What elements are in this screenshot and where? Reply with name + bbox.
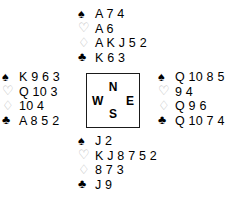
west-spades-row: ♠ K 9 6 3 (2, 70, 60, 85)
north-spades-cards: A 7 4 (91, 7, 125, 21)
south-spades-cards: J 2 (91, 134, 112, 148)
west-clubs-cards: A 8 5 2 (15, 114, 59, 128)
west-hearts-row: ♡ Q 10 3 (2, 85, 60, 100)
spade-icon: ♠ (2, 71, 15, 84)
north-diamonds-cards: A K J 5 2 (91, 36, 147, 50)
bridge-hand-diagram: ♠ A 7 4 ♡ A 6 ♢ A K J 5 2 ♣ K 6 3 ♠ K 9 … (0, 0, 234, 207)
east-diamonds-row: ♢ Q 9 6 (158, 99, 225, 114)
diamond-icon: ♢ (78, 37, 91, 50)
south-clubs-cards: J 9 (91, 178, 112, 192)
south-hearts-cards: K J 8 7 5 2 (91, 149, 157, 163)
east-hearts-cards: 9 4 (171, 85, 193, 99)
east-clubs-row: ♣ Q 10 7 4 (158, 114, 225, 129)
north-clubs-cards: K 6 3 (91, 51, 125, 65)
east-clubs-cards: Q 10 7 4 (171, 114, 225, 128)
south-diamonds-row: ♢ 8 7 3 (78, 163, 157, 178)
east-diamonds-cards: Q 9 6 (171, 99, 207, 113)
compass-east-label: E (126, 95, 134, 107)
compass-west-label: W (92, 95, 103, 107)
north-diamonds-row: ♢ A K J 5 2 (78, 36, 147, 51)
west-hearts-cards: Q 10 3 (15, 85, 58, 99)
heart-icon: ♡ (158, 85, 171, 98)
south-spades-row: ♠ J 2 (78, 134, 157, 149)
hand-east: ♠ Q 10 8 5 ♡ 9 4 ♢ Q 9 6 ♣ Q 10 7 4 (158, 70, 225, 128)
compass-box: N W E S (86, 73, 140, 128)
west-clubs-row: ♣ A 8 5 2 (2, 114, 60, 129)
diamond-icon: ♢ (78, 164, 91, 177)
south-clubs-row: ♣ J 9 (78, 178, 157, 193)
diamond-icon: ♢ (158, 100, 171, 113)
hand-west: ♠ K 9 6 3 ♡ Q 10 3 ♢ 10 4 ♣ A 8 5 2 (2, 70, 60, 128)
hand-south: ♠ J 2 ♡ K J 8 7 5 2 ♢ 8 7 3 ♣ J 9 (78, 134, 157, 192)
spade-icon: ♠ (78, 135, 91, 148)
heart-icon: ♡ (78, 149, 91, 162)
east-hearts-row: ♡ 9 4 (158, 85, 225, 100)
north-spades-row: ♠ A 7 4 (78, 7, 147, 22)
compass-north-label: N (87, 81, 139, 93)
east-spades-row: ♠ Q 10 8 5 (158, 70, 225, 85)
hand-north: ♠ A 7 4 ♡ A 6 ♢ A K J 5 2 ♣ K 6 3 (78, 7, 147, 65)
club-icon: ♣ (78, 51, 91, 64)
east-spades-cards: Q 10 8 5 (171, 70, 225, 84)
club-icon: ♣ (78, 178, 91, 191)
spade-icon: ♠ (78, 8, 91, 21)
west-spades-cards: K 9 6 3 (15, 70, 60, 84)
spade-icon: ♠ (158, 71, 171, 84)
west-diamonds-cards: 10 4 (15, 99, 44, 113)
heart-icon: ♡ (2, 85, 15, 98)
south-hearts-row: ♡ K J 8 7 5 2 (78, 149, 157, 164)
compass-south-label: S (87, 108, 139, 120)
diamond-icon: ♢ (2, 100, 15, 113)
heart-icon: ♡ (78, 22, 91, 35)
south-diamonds-cards: 8 7 3 (91, 163, 124, 177)
north-hearts-row: ♡ A 6 (78, 22, 147, 37)
north-clubs-row: ♣ K 6 3 (78, 51, 147, 66)
north-hearts-cards: A 6 (91, 22, 114, 36)
west-diamonds-row: ♢ 10 4 (2, 99, 60, 114)
club-icon: ♣ (2, 114, 15, 127)
club-icon: ♣ (158, 114, 171, 127)
